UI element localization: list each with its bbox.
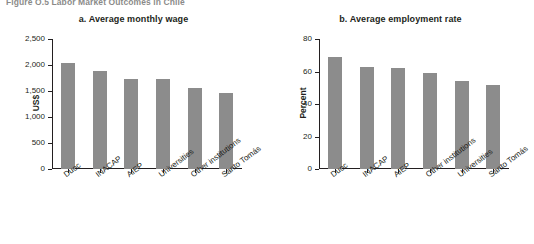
y-tick-label: 2,000 — [25, 60, 45, 69]
y-tick-label: 40 — [303, 99, 312, 108]
panels-container: a. Average monthly wage US$ 05001,0001,5… — [0, 10, 534, 244]
panel-a-y-axis — [52, 39, 53, 169]
y-tick: 40 — [315, 104, 319, 105]
bar — [61, 63, 75, 169]
panel-b-title: b. Average employment rate — [267, 14, 534, 24]
panel-a-plot-area: 05001,0001,5002,0002,500 — [52, 39, 242, 169]
y-tick: 1,500 — [48, 91, 52, 92]
y-tick: 1,000 — [48, 117, 52, 118]
panel-a-title: a. Average monthly wage — [0, 14, 267, 24]
y-tick: 500 — [48, 143, 52, 144]
y-tick: 60 — [315, 72, 319, 73]
panel-b-x-tick-labels: DuocINACAPAIEPOther institutionsUniversi… — [319, 172, 519, 242]
y-tick-label: 0 — [308, 164, 312, 173]
y-tick-label: 20 — [303, 132, 312, 141]
panel-a-y-axis-label: US$ — [31, 73, 41, 133]
y-tick: 80 — [315, 39, 319, 40]
bar — [391, 68, 405, 169]
y-tick-label: 1,500 — [25, 86, 45, 95]
bar — [328, 57, 342, 169]
y-tick-label: 1,000 — [25, 112, 45, 121]
bar — [156, 79, 170, 169]
panel-b-y-axis — [319, 39, 320, 169]
bar — [423, 73, 437, 169]
y-tick: 2,500 — [48, 39, 52, 40]
y-tick: 0 — [315, 169, 319, 170]
y-tick-label: 0 — [41, 164, 45, 173]
panel-b-plot-area: 020406080 — [319, 39, 509, 169]
panel-b: b. Average employment rate Percent 02040… — [267, 10, 534, 244]
bar — [360, 67, 374, 169]
y-tick: 0 — [48, 169, 52, 170]
y-tick: 20 — [315, 137, 319, 138]
panel-a-x-tick-labels: DuocINACAPAIEPUniversitiesOther institut… — [52, 172, 252, 242]
y-tick-label: 500 — [32, 138, 45, 147]
y-tick-label: 60 — [303, 67, 312, 76]
y-tick-label: 2,500 — [25, 34, 45, 43]
y-tick: 2,000 — [48, 65, 52, 66]
bar — [124, 79, 138, 169]
figure-title: Figure O.5 Labor Market Outcomes in Chil… — [6, 0, 185, 7]
bar — [93, 71, 107, 169]
y-tick-label: 80 — [303, 34, 312, 43]
panel-a: a. Average monthly wage US$ 05001,0001,5… — [0, 10, 267, 244]
